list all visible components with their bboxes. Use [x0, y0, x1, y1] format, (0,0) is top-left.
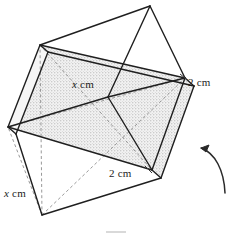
upper-pyramid-edge-right — [150, 6, 185, 78]
label-x-top-unit: cm — [77, 78, 94, 90]
geometry-figure — [0, 0, 234, 236]
label-x-top: x cm — [72, 79, 94, 90]
label-edge-right: 2 cm — [188, 77, 211, 88]
upper-pyramid-edge-left — [40, 6, 150, 45]
label-x-bottom: x cm — [4, 188, 26, 199]
lower-pyramid-edge-right — [42, 178, 161, 215]
label-edge-bottom-unit: cm — [115, 167, 132, 179]
rotation-arrow — [201, 145, 225, 193]
rotation-arrow-curve — [201, 148, 225, 193]
figure-page: x cm x cm 2 cm 2 cm — [0, 0, 234, 236]
label-edge-right-unit: cm — [194, 76, 211, 88]
hidden-apex-edge-b — [8, 127, 42, 215]
lower-pyramid-edge-left — [16, 134, 42, 215]
label-x-bottom-unit: cm — [9, 187, 26, 199]
label-edge-bottom: 2 cm — [109, 168, 132, 179]
